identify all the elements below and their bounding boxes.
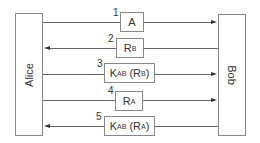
- message-3-arg: (R: [126, 67, 141, 79]
- arrow-right-icon: [211, 98, 217, 102]
- message-5-subscript: AB: [117, 123, 126, 130]
- bob-box: Bob: [218, 14, 246, 136]
- message-4-label: R: [123, 95, 131, 107]
- message-2-subscript: B: [132, 45, 137, 52]
- message-4-step: 4: [108, 85, 114, 96]
- message-2-box: RB: [116, 38, 144, 58]
- message-5-close-paren: ): [146, 120, 150, 132]
- alice-box: Alice: [15, 13, 43, 136]
- message-5-arg: (R: [126, 120, 141, 132]
- message-1-step: 1: [113, 7, 119, 18]
- message-3-box: KAB (RB): [104, 63, 155, 83]
- alice-label: Alice: [23, 63, 35, 87]
- message-4-box: RA: [115, 91, 143, 111]
- arrow-left-icon: [44, 46, 50, 50]
- arrow-right-icon: [211, 72, 217, 76]
- message-5-label: K: [110, 120, 117, 132]
- message-2-label: R: [124, 42, 132, 54]
- message-1-label: A: [128, 16, 135, 28]
- arrow-left-icon: [44, 124, 50, 128]
- message-1-box: A: [120, 12, 144, 32]
- message-3-step: 3: [97, 58, 103, 69]
- message-3-close-paren: ): [146, 67, 150, 79]
- message-4-subscript: A: [131, 98, 136, 105]
- message-5-box: KAB (RA): [104, 116, 155, 136]
- message-3-subscript: AB: [117, 70, 126, 77]
- message-2-step: 2: [108, 33, 114, 44]
- arrow-right-icon: [211, 20, 217, 24]
- message-3-label: K: [110, 67, 117, 79]
- bob-label: Bob: [226, 65, 238, 85]
- message-5-step: 5: [96, 111, 102, 122]
